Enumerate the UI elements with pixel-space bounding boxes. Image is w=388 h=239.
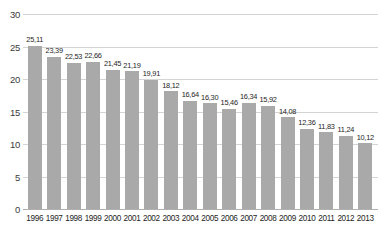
bar-2012[interactable]: 11,24 — [339, 136, 353, 209]
bar-value-label: 18,12 — [162, 81, 179, 90]
bar-1997[interactable]: 23,39 — [47, 57, 61, 209]
bar-2010[interactable]: 12,36 — [300, 129, 314, 209]
bar-value-label: 14,08 — [279, 107, 296, 116]
bar-value-label: 21,45 — [104, 59, 121, 68]
bar-rect[interactable] — [67, 63, 81, 209]
bar-value-label: 25,11 — [26, 35, 43, 44]
bar-1998[interactable]: 22,53 — [67, 63, 81, 209]
bar-2013[interactable]: 10,12 — [358, 143, 372, 209]
bar-rect[interactable] — [47, 57, 61, 209]
y-axis-tick-15: 15 — [0, 106, 20, 117]
y-axis-tick-25: 25 — [0, 41, 20, 52]
y-axis-tick-10: 10 — [0, 139, 20, 150]
bar-2001[interactable]: 21,19 — [125, 71, 139, 209]
bar-2003[interactable]: 18,12 — [164, 91, 178, 209]
bar-2006[interactable]: 15,46 — [222, 109, 236, 209]
bar-value-label: 15,46 — [221, 98, 238, 107]
bar-rect[interactable] — [203, 103, 217, 209]
bar-rect[interactable] — [358, 143, 372, 209]
bar-1999[interactable]: 22,66 — [86, 62, 100, 209]
bar-2004[interactable]: 16,64 — [183, 101, 197, 209]
bar-rect[interactable] — [183, 101, 197, 209]
bar-rect[interactable] — [28, 46, 42, 209]
bar-2008[interactable]: 15,92 — [261, 106, 275, 209]
bar-value-label: 16,64 — [182, 90, 199, 99]
bar-value-label: 15,92 — [259, 95, 276, 104]
bar-value-label: 12,36 — [298, 118, 315, 127]
bar-rect[interactable] — [319, 132, 333, 209]
bar-rect[interactable] — [164, 91, 178, 209]
bar-value-label: 19,91 — [143, 69, 160, 78]
bar-rect[interactable] — [242, 103, 256, 209]
bar-value-label: 22,53 — [65, 52, 82, 61]
bar-1996[interactable]: 25,11 — [28, 46, 42, 209]
bar-value-label: 22,66 — [84, 51, 101, 60]
bar-value-label: 16,34 — [240, 92, 257, 101]
bar-rect[interactable] — [86, 62, 100, 209]
gridline-0 — [23, 209, 378, 210]
bar-value-label: 11,24 — [337, 125, 354, 134]
bar-2009[interactable]: 14,08 — [281, 117, 295, 209]
y-axis-tick-30: 30 — [0, 9, 20, 20]
bar-rect[interactable] — [144, 80, 158, 209]
y-axis-tick-20: 20 — [0, 74, 20, 85]
bar-value-label: 21,19 — [123, 61, 140, 70]
bar-2002[interactable]: 19,91 — [144, 80, 158, 209]
bar-rect[interactable] — [125, 71, 139, 209]
bar-value-label: 16,30 — [201, 93, 218, 102]
bar-value-label: 23,39 — [46, 46, 63, 55]
y-axis-tick-5: 5 — [0, 171, 20, 182]
bar-rect[interactable] — [106, 70, 120, 209]
bar-rect[interactable] — [222, 109, 236, 209]
y-axis-tick-0: 0 — [0, 204, 20, 215]
bar-rect[interactable] — [261, 106, 275, 209]
x-axis-tick-2013: 2013 — [353, 214, 377, 223]
bar-2000[interactable]: 21,45 — [106, 70, 120, 209]
bar-2011[interactable]: 11,83 — [319, 132, 333, 209]
bar-value-label: 11,83 — [318, 122, 335, 131]
bar-2007[interactable]: 16,34 — [242, 103, 256, 209]
bar-value-label: 10,12 — [357, 133, 374, 142]
bar-rect[interactable] — [281, 117, 295, 209]
bar-chart: 051015202530 25,1123,3922,5322,6621,4521… — [0, 0, 388, 239]
bar-2005[interactable]: 16,30 — [203, 103, 217, 209]
x-axis-labels: 1996199719981999200020012002200320042005… — [25, 214, 375, 230]
bar-rect[interactable] — [339, 136, 353, 209]
plot-area: 25,1123,3922,5322,6621,4521,1919,9118,12… — [25, 14, 375, 209]
bar-rect[interactable] — [300, 129, 314, 209]
